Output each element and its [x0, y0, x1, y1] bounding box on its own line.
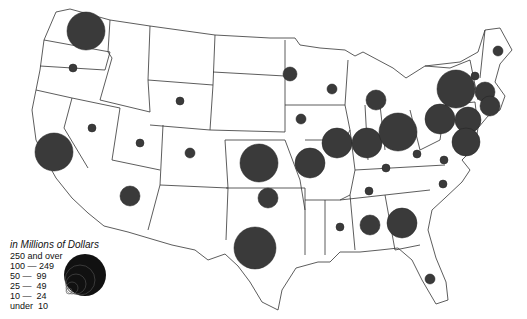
value-circle-ms	[336, 223, 344, 231]
value-circle-oh	[379, 113, 417, 151]
value-circle-ca	[35, 133, 73, 171]
value-circle-ut	[136, 139, 144, 147]
value-circle-mn	[283, 67, 297, 81]
value-circle-nv	[88, 124, 96, 132]
value-circle-az	[120, 186, 140, 206]
legend-class-6: under 10	[10, 301, 99, 311]
value-circle-tn	[365, 187, 373, 195]
value-circle-me	[493, 46, 503, 56]
value-circle-ky	[382, 164, 390, 172]
value-circle-fl	[425, 274, 435, 284]
value-circle-wy	[176, 97, 184, 105]
value-circle-va	[440, 156, 448, 164]
value-circle-ct-ri	[480, 96, 500, 116]
value-circle-mo	[295, 148, 325, 178]
value-circle-wv	[413, 150, 421, 158]
legend-title: in Millions of Dollars	[10, 240, 99, 250]
value-circle-tx	[234, 227, 276, 269]
value-circle-al	[360, 215, 380, 235]
legend-nested-circles	[60, 250, 110, 300]
value-circle-il	[322, 128, 352, 158]
value-circle-ia	[296, 114, 306, 124]
value-circle-mi	[366, 90, 386, 110]
value-circle-vt-nh	[471, 72, 479, 80]
value-circle-pa	[425, 104, 455, 134]
value-circle-co	[185, 148, 195, 158]
value-circle-ks	[240, 144, 278, 182]
value-circle-ny	[437, 70, 475, 108]
value-circle-md-de	[452, 128, 480, 156]
value-circle-ga	[387, 208, 417, 238]
value-circle-nc	[439, 180, 447, 188]
value-circle-wa	[67, 12, 105, 50]
value-circle-wi	[327, 84, 337, 94]
value-circle-or	[69, 64, 77, 72]
value-circle-ok	[258, 188, 278, 208]
value-circle-in	[352, 128, 382, 158]
